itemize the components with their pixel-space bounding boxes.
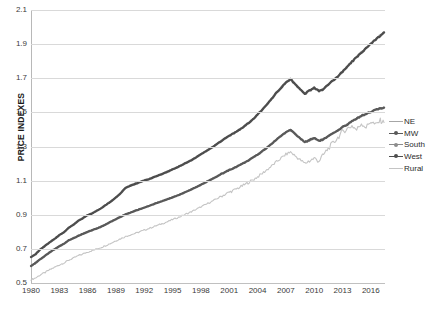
legend-label: West <box>404 152 422 161</box>
y-tick-label: 0.9 <box>0 210 27 219</box>
legend-label: South <box>404 140 425 149</box>
x-tick-label: 1989 <box>101 286 131 295</box>
legend-item-south[interactable]: South <box>389 139 434 151</box>
y-tick-label: 0.7 <box>0 244 27 253</box>
x-tick-label: 2010 <box>299 286 329 295</box>
legend-label: MW <box>404 129 418 138</box>
legend-swatch-icon <box>389 117 403 126</box>
x-tick-label: 1986 <box>73 286 103 295</box>
gridline <box>31 283 385 284</box>
x-tick-label: 1995 <box>158 286 188 295</box>
legend-label: NE <box>404 117 415 126</box>
legend-item-west[interactable]: West <box>389 151 434 163</box>
y-axis-title: PRICE INDEXES <box>16 72 26 182</box>
y-tick-label: 1.9 <box>0 39 27 48</box>
legend-item-mw[interactable]: MW <box>389 128 434 140</box>
series-line-ne <box>31 32 384 257</box>
legend-swatch-icon <box>389 164 403 173</box>
x-tick-label: 2007 <box>271 286 301 295</box>
series-line-south <box>31 107 384 265</box>
chart-legend: NEMWSouthWestRural <box>389 116 434 174</box>
legend-item-ne[interactable]: NE <box>389 116 434 128</box>
legend-item-rural[interactable]: Rural <box>389 162 434 174</box>
gridline <box>31 10 385 11</box>
series-line-rural <box>31 118 384 280</box>
series-line-mw <box>31 108 384 266</box>
gridline <box>31 249 385 250</box>
legend-label: Rural <box>404 164 423 173</box>
gridline <box>31 181 385 182</box>
gridline <box>31 147 385 148</box>
x-tick-label: 2004 <box>243 286 273 295</box>
legend-swatch-icon <box>389 152 403 161</box>
series-line-west <box>31 33 384 258</box>
gridline <box>31 215 385 216</box>
x-tick-label: 2013 <box>328 286 358 295</box>
price-indexes-line-chart: PRICE INDEXES 0.50.70.91.11.31.51.71.92.… <box>0 0 434 314</box>
legend-swatch-icon <box>389 140 403 149</box>
x-tick-label: 1998 <box>186 286 216 295</box>
plot-area <box>31 10 385 283</box>
x-tick-label: 1983 <box>44 286 74 295</box>
gridline <box>31 44 385 45</box>
x-tick-label: 2001 <box>214 286 244 295</box>
y-tick-label: 2.1 <box>0 5 27 14</box>
gridline <box>31 78 385 79</box>
x-tick-label: 1980 <box>16 286 46 295</box>
gridline <box>31 112 385 113</box>
x-tick-label: 1992 <box>129 286 159 295</box>
x-tick-label: 2016 <box>356 286 386 295</box>
legend-swatch-icon <box>389 129 403 138</box>
